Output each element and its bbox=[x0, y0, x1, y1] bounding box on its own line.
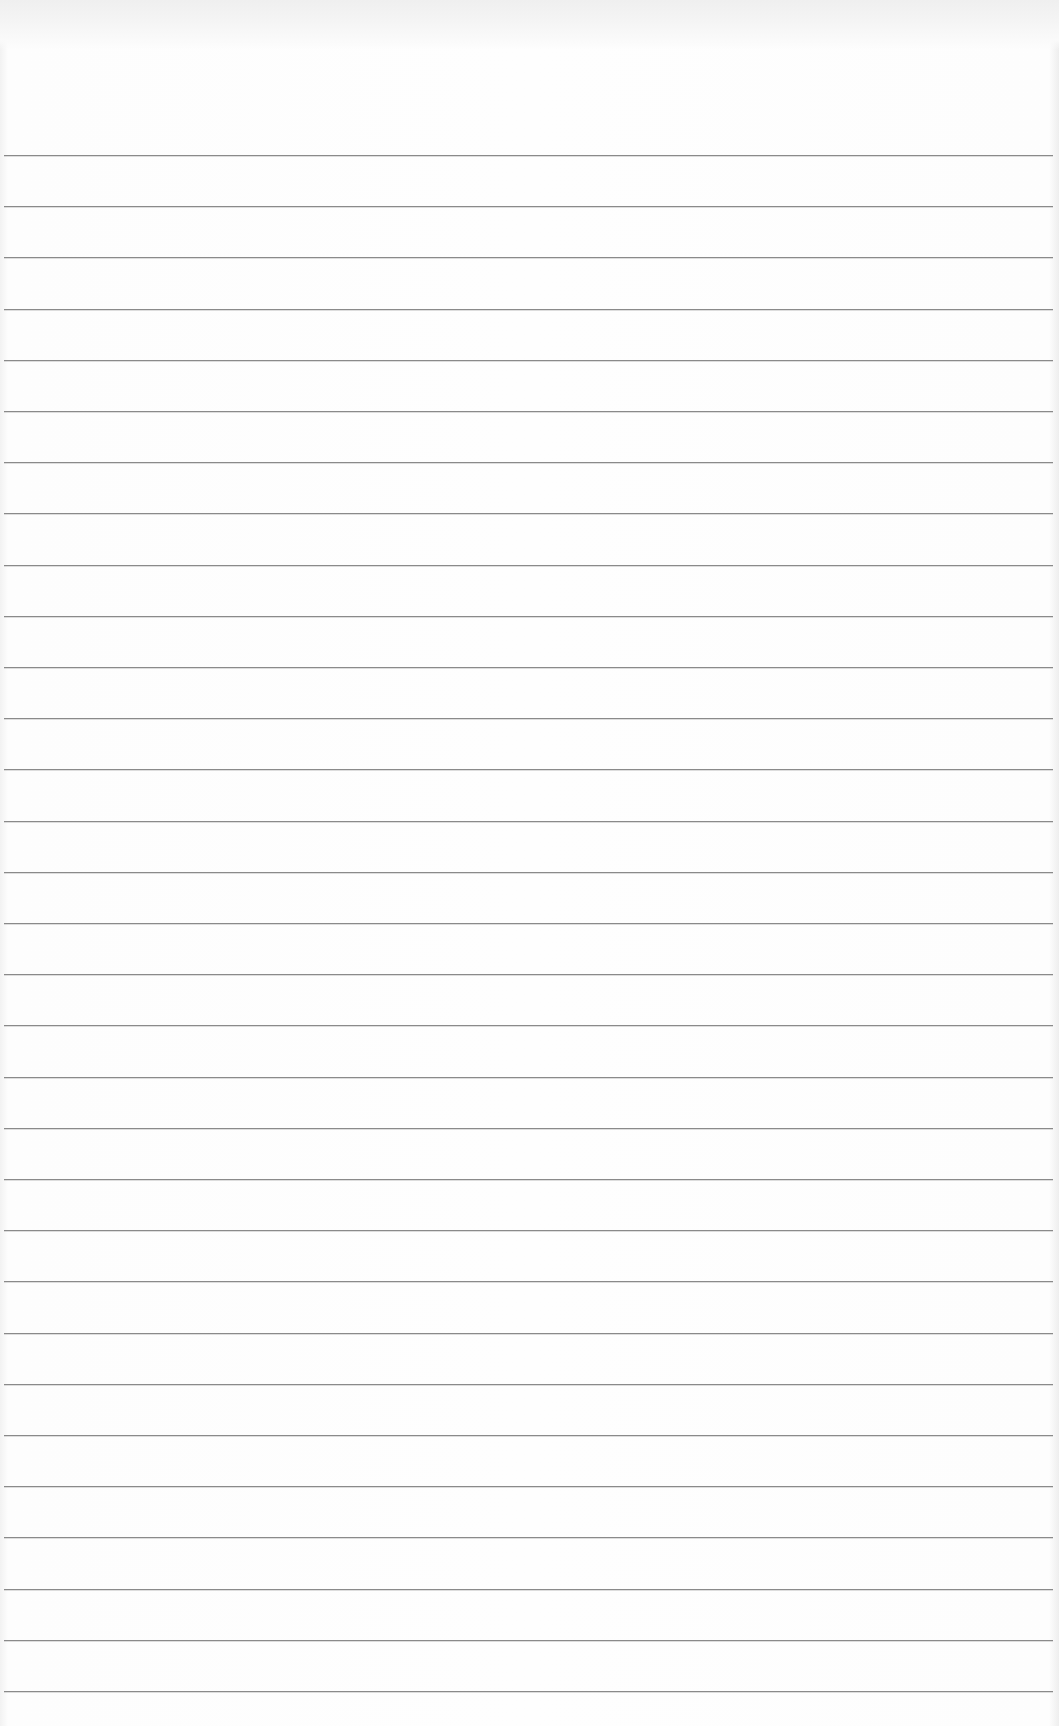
ruled-line bbox=[4, 360, 1053, 361]
ruled-line bbox=[4, 1128, 1053, 1129]
ruled-line bbox=[4, 1077, 1053, 1078]
lined-paper bbox=[0, 0, 1059, 1726]
ruled-line bbox=[4, 206, 1053, 207]
ruled-line bbox=[4, 718, 1053, 719]
ruled-line bbox=[4, 513, 1053, 514]
ruled-line bbox=[4, 821, 1053, 822]
ruled-line bbox=[4, 1025, 1053, 1026]
ruled-line bbox=[4, 309, 1053, 310]
ruled-line bbox=[4, 667, 1053, 668]
ruled-line bbox=[4, 1384, 1053, 1385]
ruled-line bbox=[4, 462, 1053, 463]
ruled-line bbox=[4, 1333, 1053, 1334]
ruled-line bbox=[4, 616, 1053, 617]
ruled-line bbox=[4, 1435, 1053, 1436]
ruled-line bbox=[4, 257, 1053, 258]
ruled-line bbox=[4, 1230, 1053, 1231]
ruled-line bbox=[4, 1589, 1053, 1590]
ruled-line bbox=[4, 1486, 1053, 1487]
ruled-line bbox=[4, 1179, 1053, 1180]
ruled-line bbox=[4, 1281, 1053, 1282]
ruled-line bbox=[4, 1691, 1053, 1692]
ruled-line bbox=[4, 411, 1053, 412]
ruled-line bbox=[4, 974, 1053, 975]
ruled-line bbox=[4, 1537, 1053, 1538]
ruled-line bbox=[4, 769, 1053, 770]
ruled-line bbox=[4, 1640, 1053, 1641]
ruled-line bbox=[4, 923, 1053, 924]
top-binding-strip bbox=[0, 0, 1059, 50]
ruled-line bbox=[4, 872, 1053, 873]
ruled-line bbox=[4, 565, 1053, 566]
ruled-line bbox=[4, 155, 1053, 156]
